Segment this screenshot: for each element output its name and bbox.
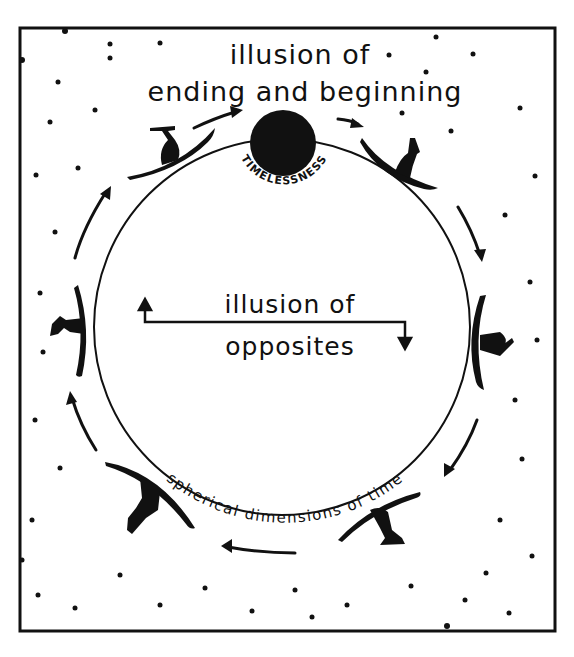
- arrow-bottom: [228, 547, 295, 553]
- arrow-right-upper: [458, 207, 480, 255]
- top-label-line2: ending and beginning: [148, 76, 463, 107]
- center-label-line2: opposites: [225, 332, 355, 361]
- surfer-right-icon: [471, 295, 514, 390]
- surfer-bottom-left-icon: [105, 462, 195, 534]
- surfer-top-left-icon: [127, 126, 215, 180]
- diagram-canvas: illusion of ending and beginning TIMELES…: [0, 0, 574, 657]
- surfer-left-icon: [50, 285, 86, 377]
- arrow-top-left: [194, 112, 235, 128]
- surfer-top-right-icon: [360, 138, 438, 190]
- center-label-line1: illusion of: [225, 290, 356, 319]
- arrow-left-upper: [75, 192, 106, 258]
- arrow-left-lower: [72, 398, 96, 450]
- time-circle: [94, 139, 470, 515]
- arrow-right-lower: [450, 420, 477, 470]
- top-label-line1: illusion of: [230, 39, 371, 70]
